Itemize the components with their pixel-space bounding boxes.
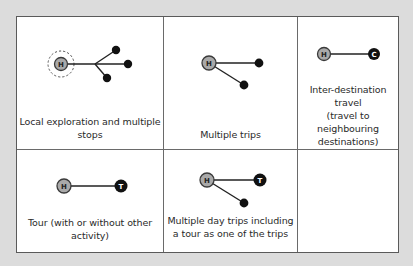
stop-dot-icon [103, 74, 111, 82]
destination-node-icon: C [368, 48, 380, 60]
svg-text:H: H [61, 183, 67, 191]
trip-pattern-grid: H Local exploration and multiple stops H… [16, 16, 399, 253]
tour-node-icon: T [115, 180, 128, 193]
svg-text:H: H [206, 60, 212, 68]
home-node-icon: H [57, 179, 71, 193]
caption-multiple-day-trips: Multiple day trips including a tour as o… [164, 214, 297, 240]
caption-inter-destination: Inter-destination travel (travel to neig… [298, 83, 398, 148]
caption-line: (travel to [298, 109, 398, 122]
cell-inter-destination: H C Inter-destination travel (travel to … [298, 17, 398, 149]
caption-line: neighbouring [298, 122, 398, 135]
caption-tour: Tour (with or without other activity) [17, 216, 163, 242]
tour-node-icon: T [254, 174, 267, 187]
caption-line: Multiple day trips including [164, 214, 297, 227]
cell-tour: H T Tour (with or without other activity… [17, 150, 163, 252]
svg-text:C: C [371, 51, 376, 59]
home-node-icon: H [318, 48, 331, 61]
caption-line: Inter-destination [298, 83, 398, 96]
caption-line: Tour (with or without other [17, 216, 163, 229]
caption-multiple-trips: Multiple trips [164, 128, 297, 141]
cell-multiple-trips: H Multiple trips [164, 17, 297, 149]
caption-line: activity) [17, 229, 163, 242]
svg-text:H: H [58, 61, 64, 69]
cell-multiple-day-trips: H T Multiple day trips including a tour … [164, 150, 297, 252]
caption-local-exploration: Local exploration and multiple stops [17, 115, 163, 141]
caption-line: Multiple trips [164, 128, 297, 141]
cell-empty [298, 150, 398, 252]
stop-dot-icon [240, 199, 249, 208]
svg-text:T: T [119, 183, 124, 191]
stop-dot-icon [240, 81, 249, 90]
caption-line: destinations) [298, 135, 398, 148]
svg-text:H: H [204, 177, 210, 185]
home-node-icon: H [200, 173, 214, 187]
stop-dot-icon [112, 46, 120, 54]
caption-line: stops [17, 128, 163, 141]
caption-line: Local exploration and multiple [17, 115, 163, 128]
home-node-icon: H [202, 56, 216, 70]
stop-dot-icon [124, 60, 132, 68]
svg-text:T: T [258, 177, 263, 185]
caption-line: a tour as one of the trips [164, 227, 297, 240]
stop-dot-icon [255, 59, 264, 68]
cell-local-exploration: H Local exploration and multiple stops [17, 17, 163, 149]
svg-text:H: H [321, 51, 327, 59]
home-node-icon: H [55, 58, 68, 71]
caption-line: travel [298, 96, 398, 109]
